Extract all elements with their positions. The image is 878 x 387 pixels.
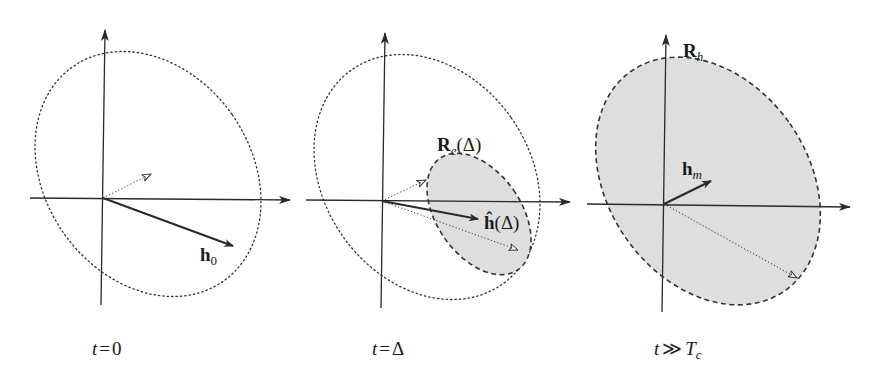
- caption-t-large: t≫Tc: [654, 338, 702, 362]
- h0-label: h0: [200, 244, 217, 268]
- y-axis: [101, 30, 105, 305]
- panel-t-large: Rh hm t≫Tc: [549, 14, 867, 362]
- x-axis: [30, 198, 290, 200]
- initial-uncertainty-ellipse: [0, 8, 308, 341]
- Re-label: Re(Δ): [437, 134, 481, 158]
- figure-canvas: h0 t=0 Re(Δ) ĥ(Δ) t=Δ Rh: [0, 0, 878, 387]
- caption-t0: t=0: [92, 338, 122, 359]
- prior-uncertainty-ellipse: [267, 11, 586, 344]
- Rh-label: Rh: [683, 40, 703, 64]
- h0-vector-arrow: [103, 198, 233, 246]
- panel-t0: h0 t=0: [0, 8, 308, 359]
- h-hat-label: ĥ(Δ): [484, 211, 519, 234]
- dotted-vector-small: [382, 180, 426, 201]
- y-axis: [381, 33, 385, 308]
- estimation-region-Re: [406, 134, 553, 294]
- panel-t-delta: Re(Δ) ĥ(Δ) t=Δ: [267, 11, 586, 359]
- region-Rh: [549, 14, 867, 348]
- dotted-vector: [103, 174, 151, 198]
- caption-t-delta: t=Δ: [372, 338, 404, 359]
